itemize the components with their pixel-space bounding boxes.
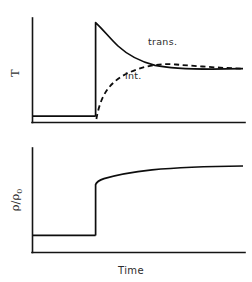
x-axis-label: Time <box>117 265 144 276</box>
series-label-trans: trans. <box>148 36 177 47</box>
density-ratio-panel: ρ/ρ0 <box>8 148 245 253</box>
temperature-y-axis-label: T <box>9 69 22 77</box>
temperature-int-curve <box>96 64 243 119</box>
temperature-panel: trans. int. T <box>9 18 245 123</box>
density-ratio-label-subscript: 0 <box>15 189 24 194</box>
density-ratio-label-numerator: ρ/ρ <box>8 194 22 212</box>
density-ratio-curve <box>96 166 243 236</box>
figure-canvas: trans. int. T ρ/ρ0 Time <box>0 0 252 282</box>
series-label-int: int. <box>125 70 142 81</box>
svg-text:ρ/ρ0: ρ/ρ0 <box>8 189 24 212</box>
density-ratio-y-axis-label: ρ/ρ0 <box>8 189 24 212</box>
plot-svg: trans. int. T ρ/ρ0 Time <box>0 0 252 282</box>
